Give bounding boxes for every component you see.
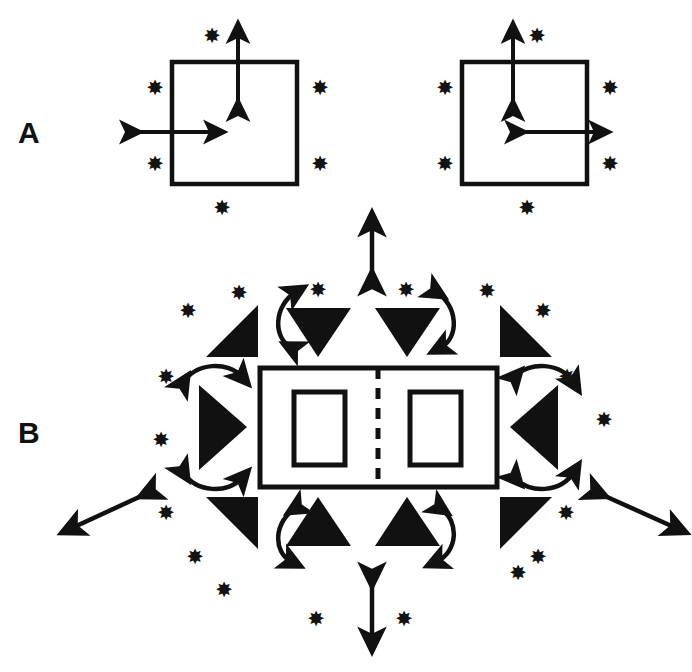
starburst-icon: ✸ bbox=[215, 580, 233, 601]
starburst-icon: ✸ bbox=[203, 26, 221, 47]
curved-arrow-left-upper bbox=[183, 366, 242, 383]
right-square-outline bbox=[462, 62, 587, 184]
left-inner-rect bbox=[294, 392, 345, 465]
starburst-icon: ✸ bbox=[534, 301, 552, 322]
curved-arrow-top-right bbox=[436, 292, 454, 348]
panel-a-group bbox=[131, 32, 600, 184]
starburst-icon: ✸ bbox=[436, 78, 454, 99]
starburst-icon: ✸ bbox=[478, 281, 496, 302]
triangle-bottom-right-corner bbox=[500, 497, 552, 549]
curved-arrow-left-lower bbox=[183, 472, 242, 489]
figure-drawing bbox=[0, 0, 692, 672]
starburst-icon: ✸ bbox=[309, 280, 327, 301]
starburst-icon: ✸ bbox=[436, 154, 454, 175]
starburst-icon: ✸ bbox=[601, 78, 619, 99]
arrow-left-diagonal bbox=[72, 492, 150, 528]
starburst-icon: ✸ bbox=[595, 410, 613, 431]
arrow-right-diagonal bbox=[596, 492, 676, 528]
starburst-icon: ✸ bbox=[186, 547, 204, 568]
triangle-top-left-inner bbox=[286, 308, 351, 357]
right-inner-rect bbox=[410, 392, 461, 465]
panel-label-a: A bbox=[18, 118, 40, 148]
starburst-icon: ✸ bbox=[307, 609, 325, 630]
starburst-icon: ✸ bbox=[146, 78, 164, 99]
figure-container: A B ✸✸✸✸✸✸✸✸✸✸✸✸✸✸✸✸✸✸✸✸✸✸✸✸✸✸✸✸✸✸ bbox=[0, 0, 692, 672]
triangle-right-middle bbox=[510, 385, 558, 470]
triangle-left-middle bbox=[199, 385, 247, 470]
starburst-icon: ✸ bbox=[157, 503, 175, 524]
starburst-icon: ✸ bbox=[179, 301, 197, 322]
starburst-icon: ✸ bbox=[557, 503, 575, 524]
starburst-icon: ✸ bbox=[213, 198, 231, 219]
starburst-icon: ✸ bbox=[528, 26, 546, 47]
starburst-icon: ✸ bbox=[601, 154, 619, 175]
starburst-icon: ✸ bbox=[395, 609, 413, 630]
starburst-icon: ✸ bbox=[518, 198, 536, 219]
triangle-bottom-right-inner bbox=[375, 497, 440, 546]
starburst-icon: ✸ bbox=[157, 367, 175, 388]
starburst-icon: ✸ bbox=[152, 430, 170, 451]
curved-arrow-bottom-right bbox=[436, 508, 454, 562]
left-square-outline bbox=[172, 62, 297, 184]
starburst-icon: ✸ bbox=[311, 78, 329, 99]
panel-label-b: B bbox=[18, 418, 40, 448]
starburst-icon: ✸ bbox=[311, 154, 329, 175]
triangle-bottom-left-inner bbox=[286, 497, 351, 546]
starburst-icon: ✸ bbox=[509, 563, 527, 584]
triangle-top-left-corner bbox=[206, 305, 258, 357]
starburst-icon: ✸ bbox=[397, 280, 415, 301]
curved-arrow-right-lower bbox=[515, 472, 574, 489]
triangle-top-right-inner bbox=[375, 308, 440, 357]
starburst-icon: ✸ bbox=[230, 283, 248, 304]
starburst-icon: ✸ bbox=[529, 547, 547, 568]
starburst-icon: ✸ bbox=[558, 367, 576, 388]
curved-arrow-top-left bbox=[278, 292, 296, 348]
panel-b-central-structure bbox=[260, 368, 497, 487]
panel-a-right-cell bbox=[462, 32, 600, 184]
panel-b-triangles bbox=[199, 305, 558, 549]
starburst-icon: ✸ bbox=[146, 154, 164, 175]
triangle-bottom-left-corner bbox=[206, 497, 258, 549]
